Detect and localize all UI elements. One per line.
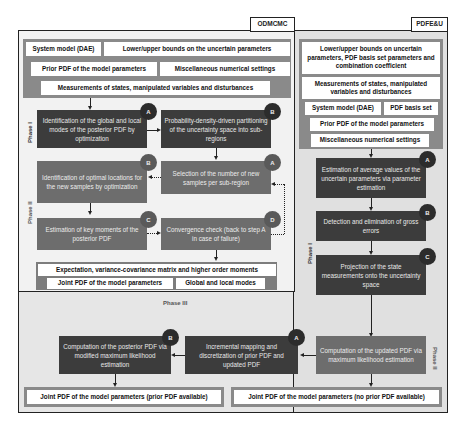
- odmcmc-phase1-label: Phase I: [27, 113, 35, 143]
- pdfeu-step-b: Detection and elimination of gross error…: [316, 211, 426, 241]
- pdfeu-bounds-input: Lower/upper bounds on uncertain paramete…: [302, 42, 440, 74]
- odmcmc-moments-output: Expectation, variance-covariance matrix …: [38, 264, 276, 276]
- odmcmc-step-d: Convergence check (back to step A in cas…: [161, 218, 271, 250]
- odmcmc-joint-pdf-output: Joint PDF of the model parameters: [47, 278, 173, 289]
- odmcmc-step-b-optimal-locations: Identification of optimal locations for …: [37, 161, 147, 203]
- phase3-output: Joint PDF of the model parameters (prior…: [27, 390, 221, 404]
- odmcmc-step-c: Estimation of key moments of the posteri…: [37, 218, 147, 250]
- odmcmc-step-c-badge: C: [140, 211, 157, 228]
- phase3-step-a: Incremental mapping and discretization o…: [185, 336, 298, 374]
- phase3-step-a-badge: A: [288, 329, 305, 346]
- pdfeu-basis-set-input: PDF basis set: [384, 102, 438, 115]
- arrow-head: [171, 353, 175, 357]
- arrow-connector: [175, 355, 185, 356]
- odmcmc-step-b-partition: Probability-density-driven partitioning …: [161, 110, 271, 148]
- pdfeu-step-a: Estimation of average values of the unce…: [316, 158, 426, 198]
- phase3-step-b-badge: B: [162, 329, 179, 346]
- loop-connector: [284, 184, 285, 234]
- arrow-connector: [371, 295, 372, 334]
- odmcmc-step-d-badge: D: [264, 211, 281, 228]
- pdfeu-system-model-input: System model (DAE): [305, 102, 381, 115]
- odmcmc-tag: ODMCMC: [250, 17, 295, 32]
- arrow-head: [88, 211, 92, 215]
- odmcmc-bounds-input: Lower/upper bounds on the uncertain para…: [104, 42, 290, 56]
- odmcmc-step-b-optimal-locations-badge: B: [140, 154, 157, 171]
- phase3-label: Phase III: [163, 300, 203, 308]
- arrow-connector: [304, 355, 316, 356]
- odmcmc-step-a: Identification of the global and local m…: [37, 110, 147, 148]
- arrow-head: [214, 156, 218, 160]
- pdfeu-output: Joint PDF of the model parameters (no pr…: [234, 390, 439, 404]
- loop-connector: [271, 234, 284, 235]
- arrow-connector: [147, 233, 157, 234]
- odmcmc-step-a-badge: A: [140, 103, 157, 120]
- odmcmc-modes-output: Global and local modes: [176, 278, 265, 289]
- pdfeu-misc-input: Miscellaneous numerical settings: [311, 134, 429, 147]
- arrow-connector: [147, 130, 157, 131]
- odmcmc-step-selection: Selection of the number of new samples p…: [161, 161, 271, 194]
- pdfeu-measurements-input: Measurements of states, manipulated vari…: [302, 77, 440, 99]
- odmcmc-phase2-label: Phase II: [27, 194, 35, 224]
- arrow-connector: [152, 177, 161, 178]
- pdfeu-update-pdf-step: Computation of the updated PDF via maxim…: [316, 336, 426, 374]
- pdfeu-step-a-badge: A: [419, 151, 436, 168]
- odmcmc-prior-pdf-input: Prior PDF of the model parameters: [31, 62, 157, 76]
- arrow-head: [148, 175, 152, 179]
- odmcmc-system-model-input: System model (DAE): [26, 42, 101, 56]
- odmcmc-step-selection-badge: A: [264, 154, 281, 171]
- arrow-head: [271, 182, 275, 186]
- pdfeu-step-c: Projection of the state measurements ont…: [316, 255, 426, 295]
- loop-connector: [275, 184, 284, 185]
- odmcmc-step-b-partition-badge: B: [264, 103, 281, 120]
- pdfeu-tag: PDFE&U: [411, 17, 448, 32]
- pdfeu-step-c-badge: C: [419, 248, 436, 265]
- pdfeu-prior-pdf-input: Prior PDF of the model parameters: [310, 118, 434, 131]
- phase3-step-b: Computation of the posterior PDF via mod…: [59, 336, 171, 374]
- pdfeu-phase2-label: Phase II: [430, 347, 438, 377]
- odmcmc-misc-input: Miscellaneous numerical settings: [160, 62, 290, 76]
- pdfeu-step-b-badge: B: [419, 204, 436, 221]
- odmcmc-measurements-input: Measurements of states, manipulated vari…: [41, 81, 270, 95]
- pdfeu-phase1-label: Phase I: [307, 234, 315, 264]
- arrow-head: [300, 353, 304, 357]
- arrow-head: [214, 257, 218, 261]
